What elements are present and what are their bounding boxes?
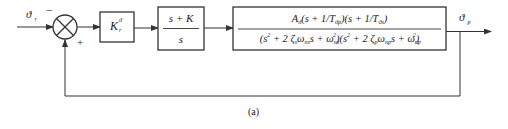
summing-junction-icon: [53, 15, 77, 39]
plant-denominator: (s2 + 2 ζsωnss + ωns2)(s2 + 2 ζpωnps + ω…: [233, 34, 446, 45]
pi-numerator: s + K: [158, 13, 204, 24]
plant-numerator: Aϑ(s + 1/Tϑp)(s + 1/Tϑs): [233, 14, 446, 25]
minus-sign: −: [46, 4, 53, 16]
output-signal-label: ϑp: [459, 12, 470, 23]
input-signal-label: ϑr: [26, 9, 37, 20]
gain-label: Kϑr: [100, 20, 134, 32]
plus-sign: +: [77, 37, 83, 48]
figure-caption: (a): [248, 107, 259, 117]
block-diagram: ϑr − + Kϑr s + K s Aϑ(s + 1/Tϑp)(s + 1/T…: [0, 0, 508, 129]
pi-denominator: s: [158, 34, 204, 45]
